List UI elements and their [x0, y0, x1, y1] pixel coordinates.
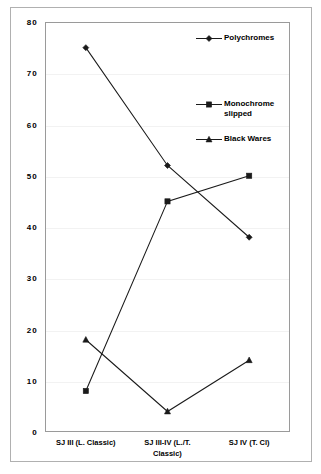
y-axis-tick-label: 70 [0, 69, 38, 78]
y-axis-tick-label: 50 [0, 171, 38, 180]
triangle-data-point-marker [246, 357, 252, 363]
legend-entry[interactable]: Polychromes [195, 33, 274, 44]
square-data-point-marker [206, 102, 211, 107]
legend-entry[interactable]: Black Wares [195, 134, 271, 145]
x-axis-tick-label: SJ III (L. Classic) [45, 437, 127, 448]
y-axis-tick-label: 10 [0, 376, 38, 385]
y-axis-tick-label: 60 [0, 120, 38, 129]
diamond-marker-icon [195, 33, 223, 44]
legend-label: Black Wares [224, 134, 271, 144]
series-line [86, 176, 249, 391]
triangle-data-point-marker [83, 337, 89, 343]
legend-entry[interactable]: Monochrome slipped [195, 99, 274, 119]
y-axis-tick-label: 20 [0, 325, 38, 334]
y-axis-tick-label: 80 [0, 18, 38, 27]
square-data-point-marker [165, 199, 170, 204]
y-axis-tick-label: 30 [0, 274, 38, 283]
square-data-point-marker [247, 173, 252, 178]
square-marker-icon [195, 99, 223, 110]
square-data-point-marker [83, 388, 88, 393]
series-line [86, 340, 249, 412]
series-group [83, 337, 252, 414]
y-axis-tick-label: 40 [0, 223, 38, 232]
x-axis-tick-label: SJ IV (T. Cl) [208, 437, 290, 448]
legend-label: Monochrome slipped [224, 99, 274, 119]
diamond-data-point-marker [83, 45, 89, 51]
series-group [83, 173, 252, 393]
diamond-data-point-marker [206, 36, 212, 42]
chart-figure: 01020304050607080 SJ III (L. Classic)SJ … [0, 0, 321, 474]
legend-label: Polychromes [224, 33, 274, 43]
y-axis-tick-label: 0 [0, 428, 38, 437]
series-plot [45, 22, 290, 432]
x-axis-tick-label: SJ III-IV (L./T. Classic) [127, 437, 209, 459]
triangle-marker-icon [195, 134, 223, 145]
